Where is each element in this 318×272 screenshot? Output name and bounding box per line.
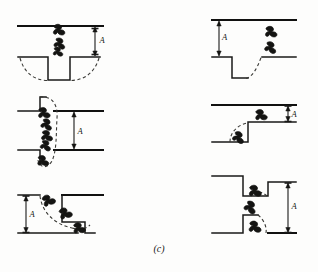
panel-2-arrowhead-down	[217, 51, 221, 56]
particle-icon	[37, 106, 51, 119]
panel-4-dimension-label: A	[291, 109, 298, 119]
panel-1-top-left: A	[18, 23, 106, 80]
panel-1-dashed-arc-left	[20, 58, 47, 81]
particle-icon	[40, 192, 56, 208]
panel-1-dashed-arc-right	[71, 58, 99, 81]
particle-icon	[57, 205, 73, 221]
panel-3-arrowhead-up	[72, 112, 76, 117]
panel-1-dimension: A	[92, 27, 106, 56]
panel-5-dimension-label: A	[29, 209, 36, 219]
panel-1-particle-group	[52, 23, 65, 56]
panel-6-dimension-label: A	[291, 201, 298, 211]
particle-icon	[41, 130, 53, 142]
panel-5-dimension: A	[23, 196, 36, 233]
particle-icon	[254, 108, 268, 122]
particle-icon	[264, 25, 277, 38]
panel-4-particle-group	[232, 108, 268, 144]
panel-6-particle-group	[243, 184, 262, 234]
figure-caption: (c)	[153, 243, 165, 255]
panel-2-arrowhead-up	[217, 21, 221, 26]
panel-2-dashed-arc	[246, 58, 261, 79]
panel-3-dimension-label: A	[77, 126, 84, 136]
panel-1-dimension-label: A	[99, 35, 106, 45]
particle-icon	[40, 118, 53, 131]
panel-2-trench-left	[212, 57, 248, 78]
panel-4-middle-right: A	[212, 105, 298, 144]
panel-5-bottom-left: A	[18, 192, 103, 235]
panel-4-step-profile	[212, 122, 296, 142]
panel-3-dimension: A	[72, 112, 84, 149]
particle-icon	[243, 200, 258, 215]
panel-1-notch-profile	[18, 57, 100, 80]
panel-2-top-right: A	[212, 20, 296, 79]
panel-2-particle-group	[264, 25, 277, 54]
particle-icon	[264, 41, 277, 54]
panel-6-bottom-right: A	[212, 176, 298, 234]
panel-2-dimension: A	[217, 21, 228, 56]
panel-2-dimension-label: A	[221, 32, 228, 42]
panel-4-dimension: A	[285, 106, 298, 122]
particle-icon	[248, 220, 261, 233]
panel-6-dimension: A	[285, 183, 298, 233]
figure-container: A A	[0, 0, 318, 272]
panel-3-arrowhead-down	[72, 144, 76, 149]
panel-3-middle-left: A	[18, 97, 103, 167]
technical-diagram-svg: A A	[0, 0, 318, 272]
panel-3-particle-group	[36, 106, 52, 167]
particle-icon	[40, 140, 52, 152]
